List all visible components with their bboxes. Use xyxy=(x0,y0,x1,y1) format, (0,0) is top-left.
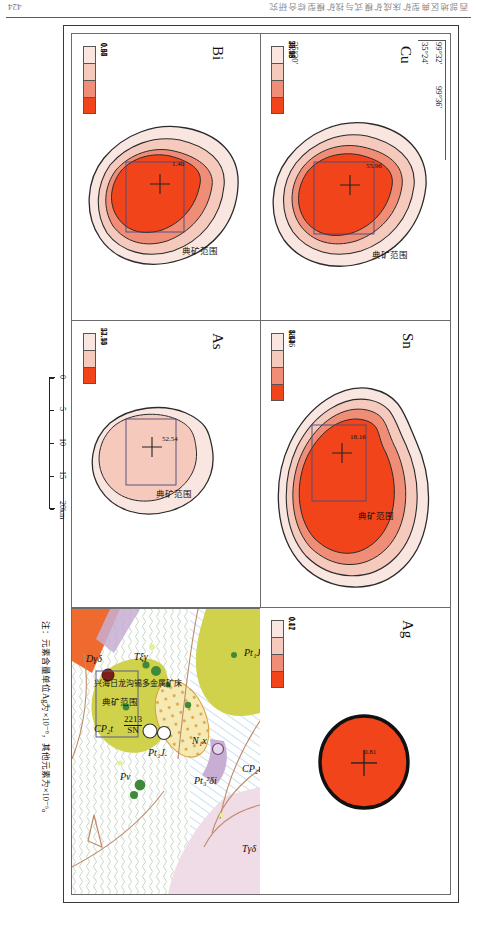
page-root: 424 西部地区典型矿床成矿模式与找矿模型综合研究 99°32′ 99°36′ … xyxy=(0,0,477,930)
anomaly-contours-sn xyxy=(266,357,438,603)
legend-swatch: 34.43 xyxy=(271,63,284,80)
figure-stage: 99°32′ 99°36′ 35°24′ 35°20′ Cu 55.96 典矿范… xyxy=(0,0,477,930)
geo-label-cp2t-south: CP₂t xyxy=(94,723,113,734)
panel-ag: Ag 0.81 0.11 0.12 0.17 0.81 xyxy=(261,608,450,894)
legend-swatch: 27.40 xyxy=(83,333,96,350)
legend-swatch: 5.64 xyxy=(271,350,284,367)
anomaly-contours-ag xyxy=(296,700,426,830)
panel-geology-map: Pt₁J. CP₂t Tγδ Pt₃²δi N₁x Pt₁J. Pν CP₂t … xyxy=(72,608,260,894)
deposit-name-label: 兴海日龙沟锡多金属矿床 xyxy=(94,677,182,688)
legend-ramp-sn: 4.14 5.64 8.43 18.16 xyxy=(271,333,284,401)
peak-value-as: 52.54 xyxy=(162,435,178,443)
anomaly-contours-cu xyxy=(267,74,432,304)
legend-swatch: 0.17 xyxy=(271,654,284,671)
scale-tick: 10 xyxy=(58,438,67,446)
geo-label-cp2t-north: CP₂t xyxy=(242,763,260,774)
panel-label-as: As xyxy=(209,333,226,350)
legend-swatch: 8.43 xyxy=(271,367,284,384)
geo-label-tXg: Tξγ xyxy=(134,651,148,662)
geo-symbol-circle xyxy=(212,744,223,755)
scale-tick: 0 xyxy=(58,375,67,379)
coord-lat-top: 35°24′ xyxy=(420,42,430,64)
scale-tick: 15 xyxy=(58,471,67,479)
peak-value-cu: 55.96 xyxy=(366,162,382,170)
scale-bar-rule xyxy=(49,377,55,509)
panel-label-bi: Bi xyxy=(209,46,226,60)
legend-swatch: 0.11 xyxy=(271,620,284,637)
legend-ramp-cu: 28.58 34.43 43.43 55.96 xyxy=(271,46,284,114)
mine-range-label-geomap: 典矿范围 xyxy=(102,695,138,707)
figure-landscape: 99°32′ 99°36′ 35°24′ 35°20′ Cu 55.96 典矿范… xyxy=(19,25,459,905)
panel-grid: 99°32′ 99°36′ 35°24′ 35°20′ Cu 55.96 典矿范… xyxy=(72,34,450,894)
figure-note: 注：元素含量单位Ag为×10⁻⁹，其他元素为×10⁻⁶。 xyxy=(41,621,53,818)
legend-swatch: 28.58 xyxy=(271,46,284,63)
legend-break: 0.81 xyxy=(287,617,296,630)
peak-value-ag: 0.81 xyxy=(364,748,376,756)
legend-swatch: 1.40 xyxy=(83,97,96,114)
coord-lon-right: 99°36′ xyxy=(434,86,444,108)
scale-tick: 5 xyxy=(58,407,67,411)
legend-break: 55.96 xyxy=(287,41,296,58)
geo-label-pv: Pν xyxy=(120,771,131,782)
legend-break: 1.40 xyxy=(99,43,108,56)
mine-range-label-as: 典矿范围 xyxy=(156,487,192,499)
mine-range-label-bi: 典矿范围 xyxy=(182,244,218,256)
legend-swatch: 0.81 xyxy=(271,671,284,688)
legend-ramp-as: 27.40 44.15 52.54 xyxy=(83,333,96,384)
geo-label-tgd: Tγδ xyxy=(242,843,256,854)
deposit-code-bottom: SN xyxy=(127,725,139,735)
legend-ramp-bi: 0.55 0.87 0.94 1.40 xyxy=(83,46,96,114)
geo-label-pt1j-south: Pt₁J. xyxy=(148,747,167,758)
anomaly-contours-bi xyxy=(82,78,244,306)
legend-swatch: 18.16 xyxy=(271,384,284,401)
legend-break: 18.16 xyxy=(287,330,296,347)
geo-label-pt1j-north: Pt₁J. xyxy=(244,647,260,658)
panel-cu: 99°32′ 99°36′ 35°24′ 35°20′ Cu 55.96 典矿范… xyxy=(261,34,450,320)
geo-label-n1x: N₁x xyxy=(192,735,207,746)
peak-value-bi: 1.40 xyxy=(172,160,184,168)
deposit-code: 2213 SN xyxy=(124,715,142,736)
peak-value-sn: 18.16 xyxy=(350,433,366,441)
panel-bi: Bi 1.40 典矿范围 0.55 0.87 0.94 xyxy=(72,34,260,320)
mine-range-label-cu: 典矿范围 xyxy=(372,248,408,260)
legend-swatch: 0.94 xyxy=(83,80,96,97)
legend-swatch: 43.43 xyxy=(271,80,284,97)
legend-swatch: 0.87 xyxy=(83,63,96,80)
legend-swatch: 0.55 xyxy=(83,46,96,63)
anomaly-contours-as xyxy=(88,375,220,575)
scale-bar: 0 5 10 15 20km xyxy=(49,377,55,509)
panel-label-sn: Sn xyxy=(399,333,416,349)
legend-swatch: 52.54 xyxy=(83,367,96,384)
legend-swatch: 4.14 xyxy=(271,333,284,350)
legend-swatch: 55.96 xyxy=(271,97,284,114)
coord-lon-left: 99°32′ xyxy=(434,42,444,64)
geo-label-pt3di: Pt₃²δi xyxy=(194,775,217,786)
panel-label-ag: Ag xyxy=(399,620,416,638)
legend-swatch: 44.15 xyxy=(83,350,96,367)
scale-tick: 20km xyxy=(58,501,67,519)
legend-break: 52.54 xyxy=(99,328,108,345)
panel-as: As 52.54 典矿范围 27.40 44.15 52.54 xyxy=(72,321,260,607)
panel-sn: Sn 18.16 典矿范围 4.14 5.64 8.43 xyxy=(261,321,450,607)
geo-symbol-circle xyxy=(143,724,157,738)
panel-label-cu: Cu xyxy=(397,46,414,64)
mine-range-label-sn: 典矿范围 xyxy=(358,509,394,521)
geo-label-dgd: Dγδ xyxy=(86,653,102,664)
legend-ramp-ag: 0.11 0.12 0.17 0.81 xyxy=(271,620,284,688)
legend-swatch: 0.12 xyxy=(271,637,284,654)
geo-symbol-circle xyxy=(157,727,170,740)
